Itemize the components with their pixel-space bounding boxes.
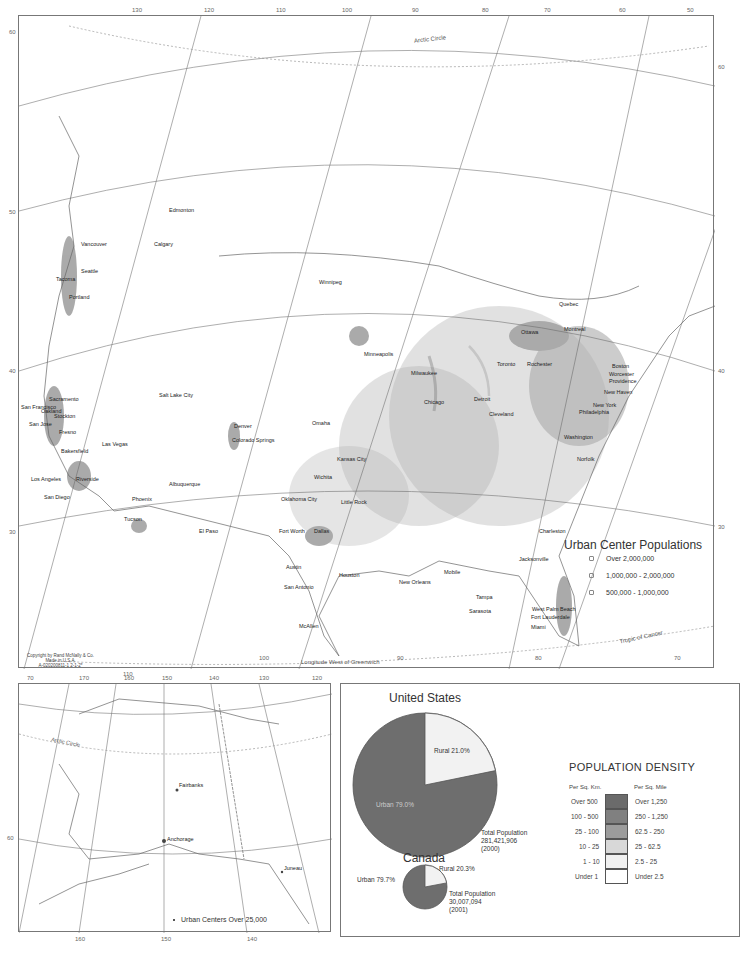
- city-label: Montreal: [564, 326, 585, 332]
- city-label: Toronto: [497, 361, 515, 367]
- latitude-tick: 30: [718, 524, 725, 530]
- city-label: Dallas: [314, 528, 329, 534]
- city-label: New York: [593, 402, 616, 408]
- city-label: Sacramento: [49, 396, 79, 402]
- city-label: Cleveland: [489, 411, 513, 417]
- latitude-tick: 30: [9, 529, 16, 535]
- density-mile-header: Per Sq. Mile: [634, 784, 667, 790]
- longitude-tick: 50: [687, 7, 694, 13]
- city-label: Anchorage: [167, 836, 194, 842]
- city-label: Detroit: [474, 396, 490, 402]
- latitude-tick: 40: [718, 368, 725, 374]
- city-label: San Jose: [29, 421, 52, 427]
- city-label: Denver: [234, 423, 252, 429]
- pie-charts: [341, 684, 741, 938]
- longitude-note: Longitude West of Greenwich: [301, 659, 380, 665]
- longitude-tick: 90: [412, 7, 419, 13]
- urban-legend-item: 1,000,000 - 2,000,000: [589, 572, 675, 579]
- density-mile-value: 2.5 - 25: [635, 858, 657, 865]
- density-km-value: 10 - 25: [579, 843, 599, 850]
- urban-dot-icon: [589, 556, 594, 561]
- density-swatch: [605, 869, 628, 884]
- density-mile-value: 25 - 62.5: [635, 843, 661, 850]
- density-mile-value: Over 1,250: [635, 798, 667, 805]
- longitude-tick: 160: [124, 675, 134, 681]
- city-label: Charleston: [539, 528, 566, 534]
- canada-pie-title: Canada: [403, 851, 445, 865]
- longitude-tick: 120: [204, 7, 214, 13]
- city-label: Riverside: [76, 476, 99, 482]
- us-urban-label: Urban 79.0%: [376, 801, 414, 809]
- city-label: Norfolk: [577, 456, 594, 462]
- urban-legend-item: Over 2,000,000: [589, 555, 654, 562]
- city-label: Kansas City: [337, 456, 366, 462]
- city-label: Rochester: [527, 361, 552, 367]
- city-label: Fresno: [59, 429, 76, 435]
- canada-rural-label: Rural 20.3%: [439, 865, 475, 873]
- city-label: Los Angeles: [31, 476, 61, 482]
- city-label: Albuquerque: [169, 481, 200, 487]
- city-label: McAllen: [299, 623, 319, 629]
- density-km-value: 25 - 100: [575, 828, 599, 835]
- city-label: Milwaukee: [411, 370, 437, 376]
- alaska-linework: [19, 684, 332, 933]
- city-label: Salt Lake City: [159, 392, 193, 398]
- urban-dot-icon: [589, 590, 594, 595]
- longitude-tick: 100: [259, 655, 269, 661]
- city-label: Tacoma: [56, 276, 75, 282]
- city-label: Jacksonville: [519, 556, 549, 562]
- longitude-tick: 150: [161, 936, 171, 942]
- city-label: Las Vegas: [102, 441, 128, 447]
- alaska-inset-map: 70 170 160 150 140 130 120 160 150 140 6…: [18, 683, 331, 932]
- city-label: San Antonio: [284, 584, 314, 590]
- urban-dot-icon: [589, 573, 594, 578]
- density-km-value: 1 - 10: [583, 858, 600, 865]
- canada-total-population: Total Population 30,007,094 (2001): [449, 890, 495, 914]
- longitude-tick: 130: [259, 675, 269, 681]
- city-label: Worcester: [609, 371, 634, 377]
- city-label: Phoenix: [132, 496, 152, 502]
- city-label: Boston: [612, 363, 629, 369]
- longitude-tick: 60: [619, 7, 626, 13]
- longitude-tick: 70: [27, 675, 34, 681]
- city-label: Houston: [339, 572, 360, 578]
- density-swatch: [605, 824, 628, 839]
- density-swatch: [605, 839, 628, 854]
- longitude-tick: 120: [312, 675, 322, 681]
- city-label: Philadelphia: [579, 409, 609, 415]
- density-mile-value: 62.5 - 250: [635, 828, 664, 835]
- longitude-tick: 150: [162, 675, 172, 681]
- longitude-tick: 110: [276, 7, 286, 13]
- city-label: Minneapolis: [364, 351, 393, 357]
- density-km-value: Over 500: [571, 798, 598, 805]
- urban-centers-legend: Urban Centers Over 25,000: [173, 916, 267, 923]
- city-label: West Palm Beach: [532, 606, 576, 612]
- city-label: Fort Lauderdale: [531, 614, 570, 620]
- longitude-tick: 90: [397, 655, 404, 661]
- longitude-tick: 80: [482, 7, 489, 13]
- city-label: Colorado Springs: [232, 437, 275, 443]
- main-map: 130 120 110 100 90 80 70 60 50 60 50 40 …: [18, 15, 714, 668]
- us-total-population: Total Population 281,421,906 (2000): [481, 829, 527, 853]
- longitude-tick: 140: [247, 936, 257, 942]
- city-label: Tucson: [124, 516, 142, 522]
- city-label: New Haven: [604, 389, 632, 395]
- city-label: Austin: [286, 564, 301, 570]
- density-mile-value: 250 - 1,250: [635, 813, 668, 820]
- density-km-header: Per Sq. Km.: [569, 784, 601, 790]
- city-label: Fort Worth: [279, 528, 305, 534]
- urban-legend-item: 500,000 - 1,000,000: [589, 589, 669, 596]
- density-km-value: 100 - 500: [571, 813, 598, 820]
- density-mile-value: Under 2.5: [635, 873, 664, 880]
- city-label: Calgary: [154, 241, 173, 247]
- city-label: Seattle: [81, 268, 98, 274]
- city-label: Little Rock: [341, 499, 367, 505]
- longitude-tick: 70: [674, 655, 681, 661]
- city-label: Ottawa: [521, 329, 538, 335]
- city-label: Providence: [609, 378, 637, 384]
- city-label: Mobile: [444, 569, 460, 575]
- longitude-tick: 170: [79, 675, 89, 681]
- density-swatch: [605, 809, 628, 824]
- city-label: Wichita: [314, 474, 332, 480]
- latitude-tick: 40: [9, 368, 16, 374]
